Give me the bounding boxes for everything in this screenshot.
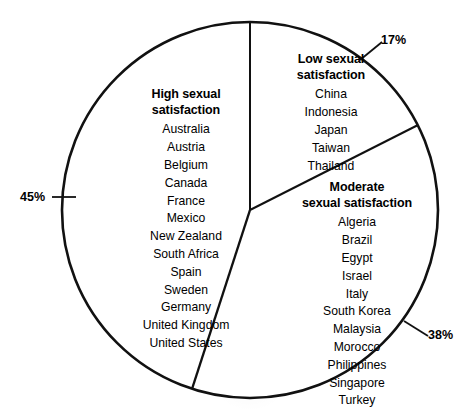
list-item: Belgium [120,157,252,175]
slice-heading-low: Low sexual satisfaction [272,52,390,83]
list-item: United States [120,335,252,353]
list-item: Italy [288,286,426,304]
list-item: New Zealand [120,228,252,246]
list-item: Thailand [272,158,390,176]
pie-chart-figure: High sexual satisfaction Australia Austr… [0,0,472,420]
list-item: Philippines [288,357,426,375]
list-item: Mexico [120,210,252,228]
list-item: Egypt [288,250,426,268]
list-item: Taiwan [272,140,390,158]
list-item: Australia [120,121,252,139]
slice-member-list-moderate: Algeria Brazil Egypt Israel Italy South … [288,214,426,410]
slice-heading-moderate: Moderate sexual satisfaction [288,180,426,211]
list-item: Indonesia [272,104,390,122]
list-item: Malaysia [288,321,426,339]
list-item: Algeria [288,214,426,232]
slice-member-list-low: China Indonesia Japan Taiwan Thailand [272,86,390,175]
list-item: Germany [120,299,252,317]
list-item: Spain [120,264,252,282]
list-item: Turkey [288,392,426,410]
list-item: Austria [120,139,252,157]
list-item: South Africa [120,246,252,264]
list-item: Canada [120,175,252,193]
list-item: Japan [272,122,390,140]
list-item: France [120,193,252,211]
percent-label-high: 45% [20,190,45,204]
list-item: China [272,86,390,104]
percent-label-moderate: 38% [428,328,453,342]
list-item: United Kingdom [120,317,252,335]
list-item: Israel [288,268,426,286]
list-item: Sweden [120,282,252,300]
slice-label-high-sexual-satisfaction: High sexual satisfaction Australia Austr… [120,87,252,353]
list-item: Singapore [288,375,426,393]
list-item: Morocco [288,339,426,357]
list-item: Brazil [288,232,426,250]
slice-member-list-high: Australia Austria Belgium Canada France … [120,121,252,353]
slice-label-low-sexual-satisfaction: Low sexual satisfaction China Indonesia … [272,52,390,175]
slice-heading-high: High sexual satisfaction [120,87,252,118]
list-item: South Korea [288,303,426,321]
percent-label-low: 17% [381,33,406,47]
slice-label-moderate-sexual-satisfaction: Moderate sexual satisfaction Algeria Bra… [288,180,426,410]
